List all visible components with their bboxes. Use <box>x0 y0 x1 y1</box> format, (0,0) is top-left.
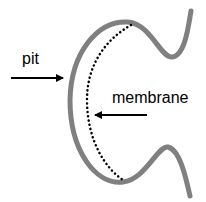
pit-membrane-diagram: pit membrane <box>0 0 206 202</box>
pit-label: pit <box>22 50 39 67</box>
membrane-label: membrane <box>112 89 189 106</box>
